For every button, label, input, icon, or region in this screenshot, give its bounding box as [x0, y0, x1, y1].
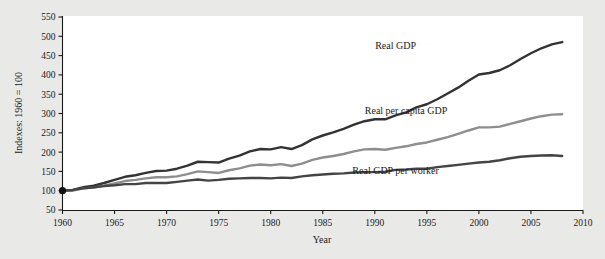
origin-marker-dot: [59, 187, 66, 194]
series-label-0: Real GDP: [375, 40, 416, 51]
y-tick-label: 200: [41, 148, 56, 158]
y-tick-label: 150: [41, 167, 56, 177]
y-tick-label: 400: [41, 70, 56, 80]
y-tick-label: 50: [46, 205, 56, 215]
y-tick-label: 250: [41, 128, 56, 138]
x-tick-label: 1970: [157, 218, 176, 228]
y-axis-title: Indexes: 1960 = 100: [13, 72, 24, 154]
y-tick-label: 550: [41, 12, 56, 22]
x-axis-title: Year: [313, 234, 332, 245]
x-tick-label: 1985: [313, 218, 332, 228]
x-tick-label: 1965: [105, 218, 124, 228]
x-tick-label: 1995: [417, 218, 436, 228]
line-chart: 50100150200250300350400450500550 1960196…: [0, 0, 605, 259]
x-tick-label: 1980: [261, 218, 280, 228]
plot-area-background: [62, 16, 583, 210]
x-tick-label: 1960: [53, 218, 72, 228]
series-label-1: Real per capita GDP: [365, 105, 448, 116]
y-tick-label: 350: [41, 90, 56, 100]
y-tick-label: 500: [41, 32, 56, 42]
x-tick-label: 1990: [365, 218, 384, 228]
y-tick-label: 300: [41, 109, 56, 119]
chart-figure: 50100150200250300350400450500550 1960196…: [0, 0, 605, 259]
y-tick-label: 450: [41, 51, 56, 61]
x-tick-label: 2000: [469, 218, 488, 228]
series-label-2: Real GDP per worker: [352, 165, 439, 176]
x-tick-label: 1975: [209, 218, 228, 228]
y-tick-label: 100: [41, 186, 56, 196]
x-tick-label: 2005: [521, 218, 540, 228]
x-tick-label: 2010: [574, 218, 593, 228]
